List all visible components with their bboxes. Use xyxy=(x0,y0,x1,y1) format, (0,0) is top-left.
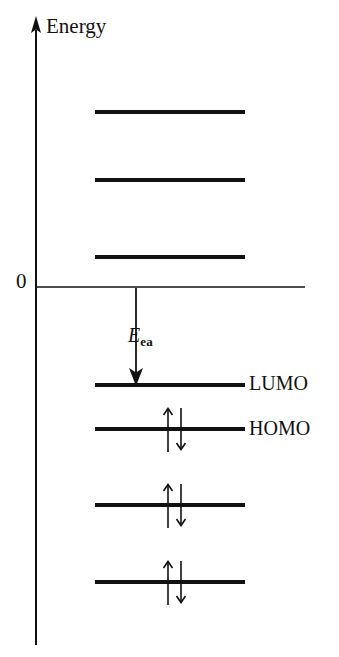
electron-affinity-subscript: ea xyxy=(140,334,153,349)
occupied-levels-group xyxy=(95,385,245,582)
lumo-level-label: LUMO xyxy=(249,373,308,393)
virtual-levels-group xyxy=(95,112,245,257)
energy-level-diagram: Energy 0 Eea LUMO HOMO xyxy=(0,0,339,657)
energy-axis xyxy=(31,16,41,645)
energy-axis-label: Energy xyxy=(46,16,106,37)
diagram-canvas xyxy=(0,0,339,657)
homo-level-label: HOMO xyxy=(249,418,310,438)
zero-tick-label: 0 xyxy=(16,271,27,292)
electron-affinity-label: Eea xyxy=(128,325,153,348)
electron-affinity-symbol: E xyxy=(128,324,140,346)
